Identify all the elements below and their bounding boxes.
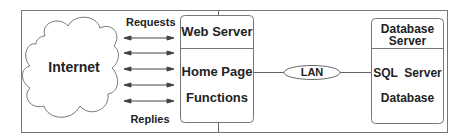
database-server-item-database: Database <box>372 91 443 105</box>
database-server-title-line2: Server <box>372 34 443 48</box>
web-server-title: Web Server <box>181 24 253 39</box>
replies-label: Replies <box>126 113 174 125</box>
web-server-item-functions: Functions <box>181 90 253 105</box>
lan-label: LAN <box>290 66 334 78</box>
web-server-item-home-page: Home Page <box>181 64 253 79</box>
database-server-item-sql-server: SQL Server <box>372 66 443 80</box>
internet-label: Internet <box>48 59 100 75</box>
requests-label: Requests <box>126 16 174 28</box>
request-reply-arrows <box>124 36 174 103</box>
